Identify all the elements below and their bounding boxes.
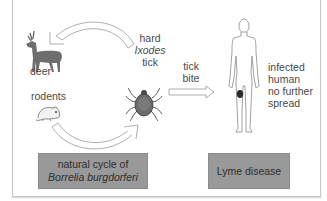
- infected-line2: human: [268, 73, 313, 85]
- natural-cycle-species: Borrelia burgdorferi: [48, 171, 138, 184]
- human-figure-icon: [224, 16, 264, 136]
- lyme-disease-box: Lyme disease: [208, 153, 290, 189]
- tick-bite-arrow-icon: [168, 85, 216, 99]
- tick-bite-line2: bite: [176, 72, 206, 84]
- tick-label: hard Ixodes tick: [132, 32, 168, 68]
- tick-label-genus: Ixodes: [132, 44, 168, 56]
- tick-bite-line1: tick: [176, 60, 206, 72]
- natural-cycle-box: natural cycle of Borrelia burgdorferi: [38, 153, 148, 189]
- tick-icon: [126, 86, 162, 122]
- infected-human-label: infected human no further spread: [268, 61, 313, 109]
- tick-bite-label: tick bite: [176, 60, 206, 84]
- tick-label-line1: hard: [132, 32, 168, 44]
- tick-label-line3: tick: [132, 56, 168, 68]
- natural-cycle-line1: natural cycle of: [58, 158, 129, 171]
- lyme-disease-label: Lyme disease: [217, 165, 281, 178]
- infected-line3: no further: [268, 85, 313, 97]
- rodent-icon: [36, 104, 62, 122]
- rodents-label: rodents: [31, 90, 66, 102]
- deer-label: deer: [30, 65, 51, 77]
- infected-line4: spread: [268, 97, 313, 109]
- infected-line1: infected: [268, 61, 313, 73]
